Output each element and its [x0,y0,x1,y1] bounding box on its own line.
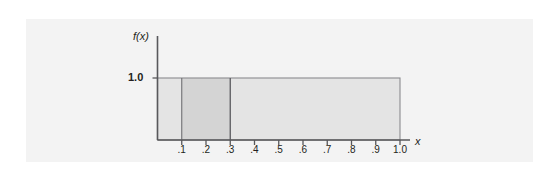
y-axis-label: f(x) [133,31,149,42]
x-axis-label: x [415,136,421,147]
x-tick-label-.5: .5 [275,145,283,155]
x-tick-label-.4: .4 [250,145,258,155]
x-tick-label-1.0: 1.0 [393,145,407,155]
y-tick-label-1.0: 1.0 [128,72,143,83]
x-tick-label-.6: .6 [299,145,307,155]
x-tick-label-.7: .7 [323,145,331,155]
x-tick-label-.8: .8 [347,145,355,155]
region-left-fill [158,78,182,140]
x-tick-label-.2: .2 [202,145,210,155]
region-highlight-fill [182,78,231,140]
x-tick-label-.1: .1 [178,145,186,155]
x-tick-label-.9: .9 [372,145,380,155]
figure-root: f(x) x 1.0 .1.2.3.4.5.6.7.8.91.0 [0,0,559,181]
x-tick-label-.3: .3 [226,145,234,155]
region-right-fill [230,78,400,140]
